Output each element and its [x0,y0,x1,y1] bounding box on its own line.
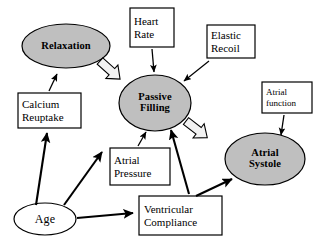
arrow-elastic-recoil-to-passive-filling [184,61,209,81]
arrow-ventricular-compliance-to-passive-filling [171,130,189,194]
arrow-age-to-calcium-reuptake [36,133,47,205]
node-elastic-recoil[interactable] [207,25,255,58]
node-calcium-reuptake[interactable] [18,93,81,128]
node-passive-filling[interactable] [119,75,191,131]
arrow-age-to-atrial-pressure [64,152,102,205]
node-atrial-pressure[interactable] [110,148,170,185]
node-heart-rate[interactable] [130,8,174,47]
diagram-canvas: Relaxation Passive Filling Atrial Systol… [0,0,319,248]
arrow-calcium-reuptake-to-relaxation [49,74,57,91]
node-relaxation[interactable] [22,24,110,68]
arrow-atrial-function-to-atrial-systole [281,115,284,135]
diagram-graphics [0,0,319,248]
arrow-ventricular-compliance-to-atrial-systole [196,179,232,196]
node-ventricular-compliance[interactable] [139,196,222,235]
arrow-heart-rate-to-passive-filling [152,49,154,72]
arrow-atrial-pressure-to-passive-filling [138,132,146,146]
node-atrial-systole[interactable] [225,133,305,185]
node-age[interactable] [14,203,76,235]
node-atrial-function[interactable] [262,82,312,113]
arrow-age-to-ventricular-compliance [77,213,133,218]
